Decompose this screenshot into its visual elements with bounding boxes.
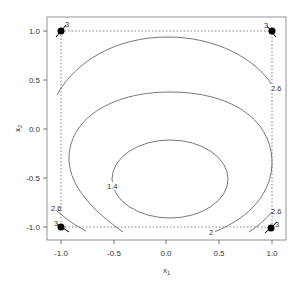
design-point-top-left: 3 [56, 20, 69, 37]
contour-label-1.4: 1.4 [107, 182, 117, 191]
y-tick-label: -0.5 [26, 174, 40, 183]
y-tick-label: -1.0 [26, 223, 40, 232]
design-point-bottom-left: 3 [54, 219, 69, 232]
x-tick-label: -1.0 [54, 249, 68, 258]
contour-label-2.6: 2.6 [51, 204, 61, 213]
svg-text:3: 3 [65, 20, 69, 29]
y-axis [43, 31, 47, 227]
contour-lines [57, 37, 272, 232]
design-point-top-right: 3 [264, 21, 276, 37]
x-tick-label: 1.0 [266, 249, 278, 258]
contour-2.6-top [57, 37, 272, 95]
contour-1.4 [112, 140, 228, 218]
contour-plot: 1.0 0.5 0.0 -0.5 -1.0 -1.0 -0.5 0.0 0.5 … [0, 0, 302, 288]
contour-label-2: 2 [209, 228, 213, 237]
plot-frame [47, 17, 286, 240]
x-axis-label: x1 [163, 266, 170, 276]
x-tick-label: 0.0 [160, 249, 172, 258]
contour-label-2.6: 2.6 [271, 84, 281, 93]
y-tick-label: 0.5 [29, 76, 41, 85]
contour-label-2.6: 2.6 [271, 207, 281, 216]
y-tick-label: 1.0 [29, 27, 41, 36]
svg-text:3: 3 [54, 219, 58, 228]
x-tick-label: -0.5 [107, 249, 121, 258]
svg-text:3: 3 [264, 21, 268, 30]
design-point-bottom-right: 3 [265, 220, 279, 233]
y-axis-label: x2 [13, 125, 23, 132]
design-region [61, 31, 272, 227]
contour-2 [69, 92, 272, 232]
svg-text:3: 3 [275, 220, 279, 229]
x-tick-label: 0.5 [213, 249, 225, 258]
x-axis [61, 240, 272, 244]
y-tick-label: 0.0 [29, 125, 41, 134]
